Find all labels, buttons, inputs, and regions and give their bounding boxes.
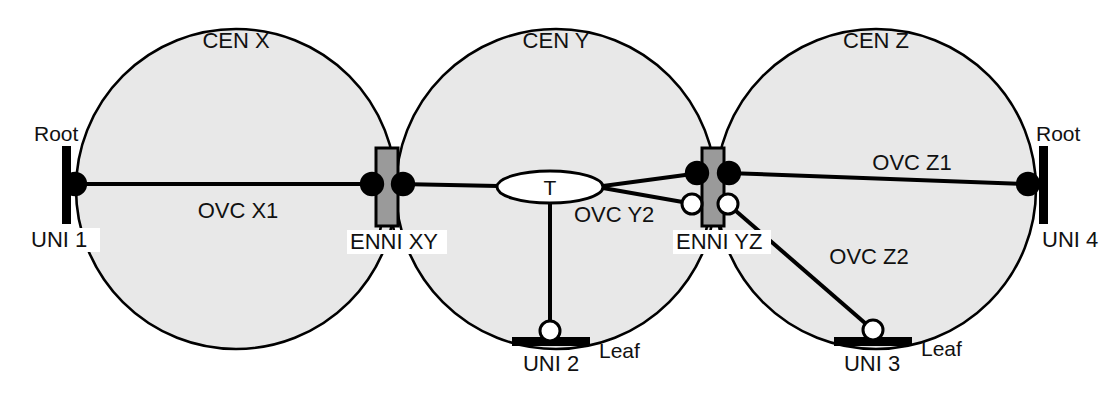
uni-2-label: UNI 2: [523, 351, 579, 376]
transit-t-label: T: [544, 176, 557, 199]
ovc-z1-label: OVC Z1: [872, 150, 951, 175]
uni-3-leaf-marker[interactable]: [863, 320, 883, 340]
enni-xy-label: ENNI XY: [350, 229, 438, 254]
network-diagram-canvas: T: [0, 0, 1111, 398]
enni-yz-box[interactable]: [702, 148, 724, 226]
uni-1-role-label: Root: [34, 122, 79, 145]
uni-2-leaf-marker[interactable]: [540, 321, 560, 341]
enni-yz-port-right-leaf[interactable]: [718, 194, 738, 214]
cen-z-circle: [716, 29, 1036, 349]
diagram-svg: T: [0, 0, 1111, 398]
uni-4-label: UNI 4: [1042, 227, 1098, 252]
cen-x-circle: [76, 29, 396, 349]
uni-2-role-label: Leaf: [599, 339, 640, 362]
uni-1-label: UNI 1: [31, 227, 87, 252]
uni-4-bar[interactable]: [1039, 146, 1048, 224]
enni-xy-port-left-root[interactable]: [361, 173, 383, 195]
cen-x-title: CEN X: [202, 28, 270, 53]
enni-xy-port-right-root[interactable]: [392, 173, 414, 195]
ovc-z2-label: OVC Z2: [829, 244, 908, 269]
cen-z-title: CEN Z: [843, 28, 909, 53]
enni-yz-label: ENNI YZ: [676, 229, 762, 254]
uni-3-role-label: Leaf: [921, 337, 962, 360]
enni-yz-port-right-root[interactable]: [718, 162, 740, 184]
uni-3-label: UNI 3: [844, 351, 900, 376]
ovc-y2-label: OVC Y2: [574, 202, 654, 227]
uni-1-root-marker[interactable]: [64, 173, 86, 195]
enni-yz-port-left-root[interactable]: [686, 162, 708, 184]
uni-4-role-label: Root: [1036, 122, 1081, 145]
uni-4-root-marker[interactable]: [1017, 173, 1039, 195]
transit-t-node[interactable]: T: [497, 171, 603, 203]
cen-y-title: CEN Y: [523, 28, 590, 53]
ovc-x1-label: OVC X1: [198, 198, 279, 223]
enni-yz-port-left-leaf[interactable]: [682, 194, 702, 214]
